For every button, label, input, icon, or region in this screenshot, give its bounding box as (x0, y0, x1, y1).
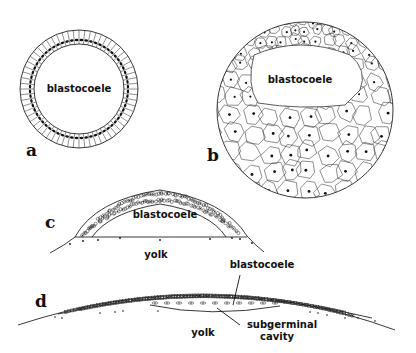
panel-c-blastocoele-label: blastocoele (133, 209, 198, 220)
panel-c-letter: c (45, 212, 55, 232)
panel-c-yolk-label: yolk (144, 249, 168, 260)
panel-a-blastocoele-label: blastocoele (47, 83, 112, 94)
panel-b-letter: b (207, 145, 219, 165)
panel-b-cells (200, 15, 408, 204)
panel-b: blastocoele b (200, 15, 408, 204)
panel-c: blastocoele yolk c (45, 190, 264, 260)
panel-d-subgerminal-label: subgerminal (247, 319, 317, 330)
panel-b-blastocoele-label: blastocoele (268, 74, 333, 85)
panel-a-letter: a (26, 140, 37, 160)
panel-d-cavity-label: cavity (260, 331, 294, 342)
panel-d-cells (54, 294, 376, 322)
panel-d-yolk-label: yolk (191, 327, 215, 338)
blastula-diagram: blastocoele a blastocoele b blastocoele … (0, 0, 416, 353)
panel-d-subgerminal-pointer (217, 308, 240, 325)
panel-d-letter: d (35, 291, 47, 311)
panel-d: blastocoele yolk subgerminal cavity d (18, 259, 395, 342)
panel-d-subgerminal-floor (150, 305, 280, 312)
panel-d-blastocoele-label: blastocoele (230, 259, 295, 270)
panel-d-blastocoele-pointer (233, 275, 240, 305)
panel-a: blastocoele a (20, 30, 138, 160)
